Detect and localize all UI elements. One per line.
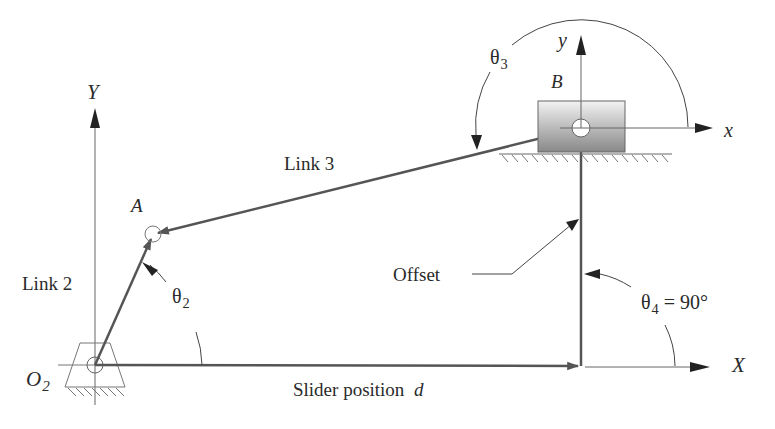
offset-label: Offset [393, 265, 440, 284]
o2-main: O [26, 367, 41, 391]
local-x-axis-label: x [724, 120, 733, 140]
theta4-symbol: θ [641, 291, 651, 313]
theta4-angle-arc [584, 269, 675, 366]
global-x-axis [585, 362, 710, 372]
slider-block [499, 101, 672, 162]
theta2-subscript: 2 [183, 295, 190, 311]
link-3-vector [158, 129, 578, 233]
offset-leader [472, 219, 579, 274]
theta2-label: θ2 [172, 286, 190, 306]
theta3-symbol: θ [490, 46, 500, 68]
global-x-axis-label: X [732, 355, 745, 376]
pivot-o2-label: O2 [26, 369, 50, 390]
link-2-vector [95, 239, 151, 365]
theta4-label: θ4 = 90° [641, 292, 708, 312]
slider-position-variable: d [414, 379, 424, 400]
local-y-axis-label: y [558, 30, 567, 50]
o2-subscript: 2 [42, 378, 50, 394]
diagram-graphics [0, 0, 775, 429]
theta3-label: θ3 [490, 47, 508, 67]
ground-pivot-o2 [58, 343, 125, 396]
global-y-axis-label: Y [87, 82, 99, 103]
theta2-symbol: θ [172, 285, 182, 307]
point-a-label: A [131, 196, 143, 215]
global-y-axis [90, 108, 100, 405]
point-b-label: B [551, 72, 563, 91]
link-2-label: Link 2 [22, 274, 72, 293]
theta4-subscript: 4 [652, 301, 659, 317]
slider-position-label: Slider position d [293, 380, 423, 399]
slider-position-text: Slider position [293, 379, 404, 400]
slider-position-vector [95, 365, 578, 366]
link-3-label: Link 3 [284, 154, 334, 173]
theta2-angle-arc [142, 262, 202, 365]
theta3-subscript: 3 [501, 56, 508, 72]
slider-crank-diagram: Y X y x A B O2 Link 2 Link 3 Offset Slid… [0, 0, 775, 429]
theta4-value: = 90° [659, 291, 708, 313]
